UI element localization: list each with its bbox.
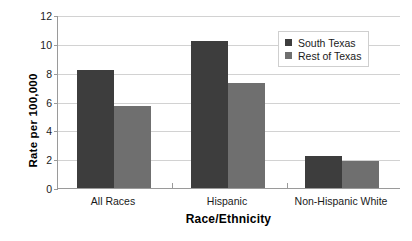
bar [305, 156, 342, 188]
x-axis-tick-label: All Races [91, 195, 135, 207]
bar [342, 161, 379, 188]
legend-item: Rest of Texas [285, 49, 361, 62]
x-axis-title: Race/Ethnicity [57, 212, 400, 226]
legend-item: South Texas [285, 36, 361, 49]
legend-swatch-icon [285, 52, 292, 59]
y-axis-tick-label: 2 [46, 154, 52, 166]
y-axis-title: Rate per 100,000 [22, 0, 44, 241]
y-axis-tick-mark [54, 189, 58, 190]
legend-item-label: Rest of Texas [298, 50, 361, 62]
x-axis-separator-tick [172, 183, 173, 188]
bar [114, 106, 151, 188]
y-axis-tick-label: 4 [46, 125, 52, 137]
y-axis-tick-label: 8 [46, 68, 52, 80]
bar-chart: Rate per 100,000 024681012 All RacesHisp… [0, 0, 412, 241]
y-axis-tick-label: 10 [40, 39, 52, 51]
chart-legend: South Texas Rest of Texas [278, 31, 369, 67]
bar [191, 41, 228, 188]
y-axis-tick-label: 0 [46, 183, 52, 195]
bar-group [191, 16, 265, 188]
y-axis-tick-label: 6 [46, 97, 52, 109]
legend-item-label: South Texas [298, 37, 356, 49]
legend-swatch-icon [285, 39, 292, 46]
bar [77, 70, 114, 188]
bar [228, 83, 265, 188]
x-axis-tick-label: Hispanic [207, 195, 247, 207]
y-axis-tick-label: 12 [40, 10, 52, 22]
x-axis-tick-label: Non-Hispanic White [295, 195, 388, 207]
bar-group [77, 16, 151, 188]
x-axis-separator-tick [287, 183, 288, 188]
